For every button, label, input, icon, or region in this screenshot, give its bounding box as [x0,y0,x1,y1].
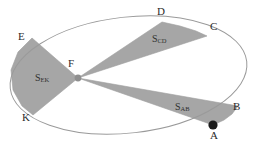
vertex-label-c: C [210,21,218,32]
vertex-label-f: F [68,58,74,69]
vertex-label-k: K [22,112,30,123]
area-label-ek: SEK [35,73,49,84]
vertex-label-e: E [18,31,25,42]
focus-point-dot [75,75,82,82]
vertex-label-d: D [157,6,165,17]
area-label-subscript: CD [158,37,167,44]
vertex-label-b: B [233,101,241,112]
sector-cd-shape [78,22,207,78]
figure-container: DCBAKE SEKSCDSAB F [0,0,258,151]
vertex-label-a: A [210,130,218,141]
sector-ab-shape [78,78,238,125]
area-label-subscript: AB [181,105,190,112]
area-label-ab: SAB [175,102,189,113]
area-label-cd: SCD [152,34,166,45]
area-label-subscript: EK [41,76,49,83]
